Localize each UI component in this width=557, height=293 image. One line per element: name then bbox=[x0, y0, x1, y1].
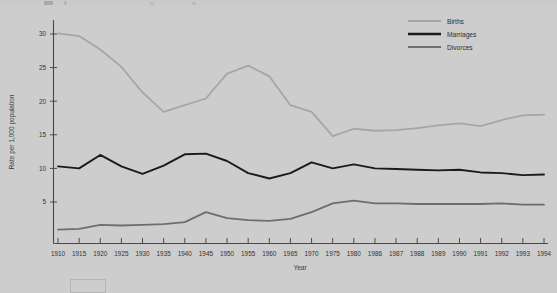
series-line-marriages bbox=[58, 154, 544, 179]
x-tick-label: 1988 bbox=[410, 250, 425, 257]
x-axis-ticks bbox=[58, 238, 544, 244]
series-line-divorces bbox=[58, 201, 544, 230]
x-tick-label: 1987 bbox=[389, 250, 404, 257]
x-tick-label: 1930 bbox=[135, 250, 150, 257]
y-tick-label: 30 bbox=[39, 30, 47, 37]
x-tick-label: 1970 bbox=[304, 250, 319, 257]
x-tick-label: 1975 bbox=[326, 250, 341, 257]
y-axis-title: Rate per 1,000 population bbox=[8, 94, 16, 169]
x-tick-label: 1955 bbox=[241, 250, 256, 257]
x-tick-label: 1993 bbox=[516, 250, 531, 257]
y-tick-label: 20 bbox=[39, 98, 47, 105]
y-tick-label: 10 bbox=[39, 165, 47, 172]
x-tick-label: 1986 bbox=[368, 250, 383, 257]
x-tick-label: 1910 bbox=[51, 250, 66, 257]
x-tick-label: 1994 bbox=[537, 250, 552, 257]
x-tick-label: 1925 bbox=[114, 250, 129, 257]
x-tick-label: 1915 bbox=[72, 250, 87, 257]
y-tick-label: 5 bbox=[42, 198, 46, 205]
chart-legend: BirthsMarriagesDivorces bbox=[408, 18, 477, 51]
y-tick-label: 15 bbox=[39, 131, 47, 138]
data-series-group bbox=[58, 33, 544, 229]
x-tick-label: 1940 bbox=[178, 250, 193, 257]
x-tick-label: 1950 bbox=[220, 250, 235, 257]
x-tick-label: 1935 bbox=[157, 250, 172, 257]
x-tick-label: 1991 bbox=[473, 250, 488, 257]
y-axis-tick-labels: 51015202530 bbox=[39, 30, 47, 205]
x-axis-title: Year bbox=[293, 264, 307, 271]
legend-label-divorces: Divorces bbox=[447, 44, 473, 51]
y-tick-label: 25 bbox=[39, 64, 47, 71]
x-tick-label: 1992 bbox=[495, 250, 510, 257]
x-tick-label: 1920 bbox=[93, 250, 108, 257]
x-tick-label: 1989 bbox=[431, 250, 446, 257]
legend-label-marriages: Marriages bbox=[447, 31, 477, 39]
x-tick-label: 1960 bbox=[262, 250, 277, 257]
x-axis-tick-labels: 1910191519201925193019351940194519501955… bbox=[51, 250, 552, 257]
scan-artifact-box bbox=[70, 279, 106, 293]
legend-label-births: Births bbox=[447, 18, 465, 25]
x-tick-label: 1965 bbox=[283, 250, 298, 257]
x-tick-label: 1945 bbox=[199, 250, 214, 257]
x-tick-label: 1980 bbox=[347, 250, 362, 257]
x-tick-label: 1990 bbox=[452, 250, 467, 257]
